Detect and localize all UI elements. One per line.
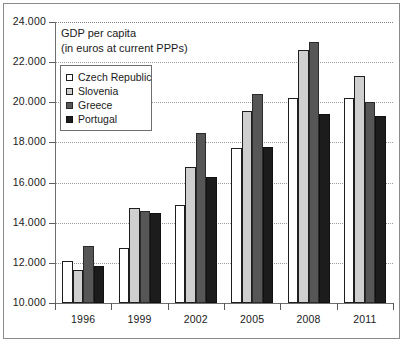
legend-item-label: Slovenia <box>78 85 118 97</box>
y-axis-line <box>55 22 56 304</box>
legend-item-label: Portugal <box>78 113 117 125</box>
bar-2002-slovenia <box>185 167 196 303</box>
legend-item-label: Greece <box>78 99 112 111</box>
legend-swatch-icon <box>66 116 73 123</box>
bar-2008-czech-republic <box>288 98 299 303</box>
bar-1999-czech-republic <box>119 248 130 303</box>
gdp-per-capita-bar-chart: 10.00012.00014.00016.00018.00020.00022.0… <box>0 0 404 343</box>
y-tick-label: 10.000 <box>0 296 46 308</box>
y-tick-label: 16.000 <box>0 176 46 188</box>
x-tick-label: 2008 <box>280 313 336 325</box>
y-tick-label: 24.000 <box>0 15 46 27</box>
bar-2005-greece <box>252 94 263 303</box>
x-tick-mark <box>224 303 225 310</box>
x-tick-label: 2005 <box>224 313 280 325</box>
bar-2008-slovenia <box>298 50 309 303</box>
bar-2002-czech-republic <box>175 205 186 303</box>
bar-2008-greece <box>309 42 320 303</box>
x-tick-label: 2002 <box>168 313 224 325</box>
legend-item-slovenia: Slovenia <box>66 84 146 98</box>
bar-2005-slovenia <box>242 111 253 303</box>
legend-item-czech-republic: Czech Republic <box>66 70 146 84</box>
bar-2005-portugal <box>263 147 274 303</box>
y-tick-mark <box>49 183 55 184</box>
bar-1999-portugal <box>150 213 161 303</box>
bar-1996-greece <box>83 246 94 303</box>
bar-1996-portugal <box>94 266 105 303</box>
legend-swatch-icon <box>66 88 73 95</box>
y-tick-mark <box>49 102 55 103</box>
bar-2011-slovenia <box>354 76 365 303</box>
bar-1996-slovenia <box>73 270 84 303</box>
bar-2008-portugal <box>319 114 330 303</box>
x-tick-label: 1996 <box>55 313 111 325</box>
bar-1996-czech-republic <box>62 261 73 303</box>
legend-item-portugal: Portugal <box>66 112 146 126</box>
y-tick-label: 18.000 <box>0 135 46 147</box>
y-tick-mark <box>49 263 55 264</box>
y-tick-mark <box>49 22 55 23</box>
bar-2005-czech-republic <box>231 148 242 303</box>
x-tick-mark <box>111 303 112 310</box>
bar-2002-portugal <box>206 177 217 303</box>
y-tick-label: 14.000 <box>0 216 46 228</box>
chart-title: GDP per capita(in euros at current PPPs) <box>61 26 188 55</box>
gridline <box>55 223 393 224</box>
gridline <box>55 183 393 184</box>
legend-swatch-icon <box>66 102 73 109</box>
x-tick-mark <box>168 303 169 310</box>
y-tick-label: 12.000 <box>0 256 46 268</box>
x-tick-mark <box>280 303 281 310</box>
y-tick-mark <box>49 223 55 224</box>
bar-1999-greece <box>140 211 151 303</box>
y-tick-mark <box>49 62 55 63</box>
x-tick-label: 2011 <box>337 313 393 325</box>
gridline <box>55 22 393 23</box>
legend-item-greece: Greece <box>66 98 146 112</box>
chart-title-line-1: GDP per capita <box>61 27 136 39</box>
y-tick-label: 22.000 <box>0 55 46 67</box>
x-tick-label: 1999 <box>111 313 167 325</box>
bar-2011-portugal <box>375 116 386 303</box>
x-tick-mark <box>337 303 338 310</box>
chart-title-line-2: (in euros at current PPPs) <box>61 42 188 54</box>
chart-legend: Czech RepublicSloveniaGreecePortugal <box>60 65 152 131</box>
bar-2011-greece <box>365 102 376 303</box>
gridline <box>55 142 393 143</box>
bar-2011-czech-republic <box>344 98 355 303</box>
y-tick-mark <box>49 142 55 143</box>
bar-1999-slovenia <box>129 208 140 303</box>
legend-swatch-icon <box>66 74 73 81</box>
bar-2002-greece <box>196 133 207 303</box>
legend-item-label: Czech Republic <box>78 71 152 83</box>
x-tick-mark <box>393 303 394 310</box>
x-tick-mark <box>55 303 56 310</box>
y-tick-label: 20.000 <box>0 95 46 107</box>
gridline <box>55 263 393 264</box>
gridline <box>55 62 393 63</box>
